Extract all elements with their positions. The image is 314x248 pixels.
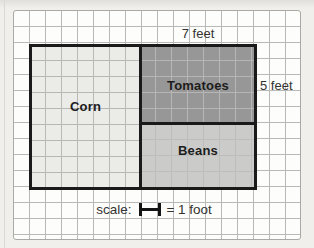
scale-label: scale: [96,202,131,217]
garden-right-column: Tomatoes Beans [142,47,254,187]
garden-plot-diagram: Corn Tomatoes Beans [29,44,257,190]
one-foot-length-icon [139,203,161,216]
dimension-label-height: 5 feet [260,78,293,93]
region-beans-label: Beans [142,143,254,158]
page-edge-line [4,0,5,248]
region-beans: Beans [142,125,254,187]
region-corn: Corn [32,47,142,187]
scale-legend: scale: = 1 foot [54,202,254,217]
worksheet-page: 7 feet 5 feet Corn Tomatoes Beans scale:… [0,0,314,248]
region-tomatoes-label: Tomatoes [142,78,254,93]
grid-paper: 7 feet 5 feet Corn Tomatoes Beans scale:… [13,10,301,240]
dimension-label-width: 7 feet [142,26,254,41]
region-tomatoes: Tomatoes [142,47,254,125]
scale-unit-label: = 1 foot [166,202,211,217]
region-corn-label: Corn [32,99,139,114]
